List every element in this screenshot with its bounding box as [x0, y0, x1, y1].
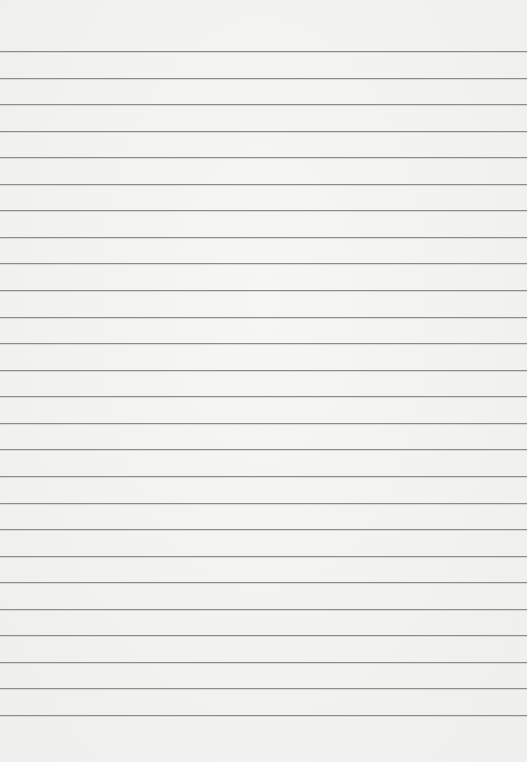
- ruled-line: [0, 237, 527, 238]
- ruled-line: [0, 556, 527, 557]
- ruled-line: [0, 104, 527, 105]
- ruled-line: [0, 688, 527, 689]
- ruled-line: [0, 662, 527, 663]
- ruled-line: [0, 263, 527, 264]
- ruled-line: [0, 317, 527, 318]
- ruled-line: [0, 582, 527, 583]
- ruled-line: [0, 715, 527, 716]
- ruled-line: [0, 609, 527, 610]
- ruled-line: [0, 635, 527, 636]
- ruled-line: [0, 449, 527, 450]
- ruled-line: [0, 184, 527, 185]
- ruled-line: [0, 503, 527, 504]
- ruled-line: [0, 529, 527, 530]
- lined-paper-sheet: [0, 0, 527, 762]
- ruled-line: [0, 157, 527, 158]
- ruled-line: [0, 423, 527, 424]
- ruled-line: [0, 290, 527, 291]
- ruled-line: [0, 370, 527, 371]
- ruled-line: [0, 343, 527, 344]
- ruled-line: [0, 131, 527, 132]
- ruled-line: [0, 210, 527, 211]
- ruled-line: [0, 396, 527, 397]
- ruled-line: [0, 78, 527, 79]
- ruled-line: [0, 476, 527, 477]
- ruled-line: [0, 51, 527, 52]
